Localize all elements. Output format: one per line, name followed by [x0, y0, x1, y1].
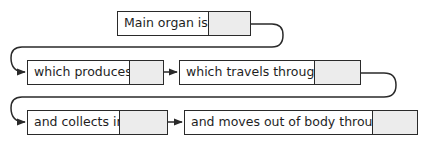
diagram-canvas: Main organ is: which produces: which tra…: [0, 0, 427, 155]
step-label: which produces:: [28, 61, 130, 84]
answer-field[interactable]: [209, 12, 250, 35]
step-box-travels-through: which travels through:: [179, 60, 361, 85]
answer-field[interactable]: [130, 61, 163, 84]
step-label: which travels through:: [180, 61, 315, 84]
step-box-collects-in: and collects in:: [27, 110, 168, 135]
step-label: Main organ is:: [118, 12, 209, 35]
answer-field[interactable]: [373, 111, 417, 134]
step-label: and moves out of body through:: [185, 111, 373, 134]
answer-field[interactable]: [120, 111, 167, 134]
step-box-main-organ: Main organ is:: [117, 11, 251, 36]
step-box-produces: which produces:: [27, 60, 164, 85]
answer-field[interactable]: [315, 61, 360, 84]
step-label: and collects in:: [28, 111, 120, 134]
step-box-moves-out: and moves out of body through:: [184, 110, 418, 135]
